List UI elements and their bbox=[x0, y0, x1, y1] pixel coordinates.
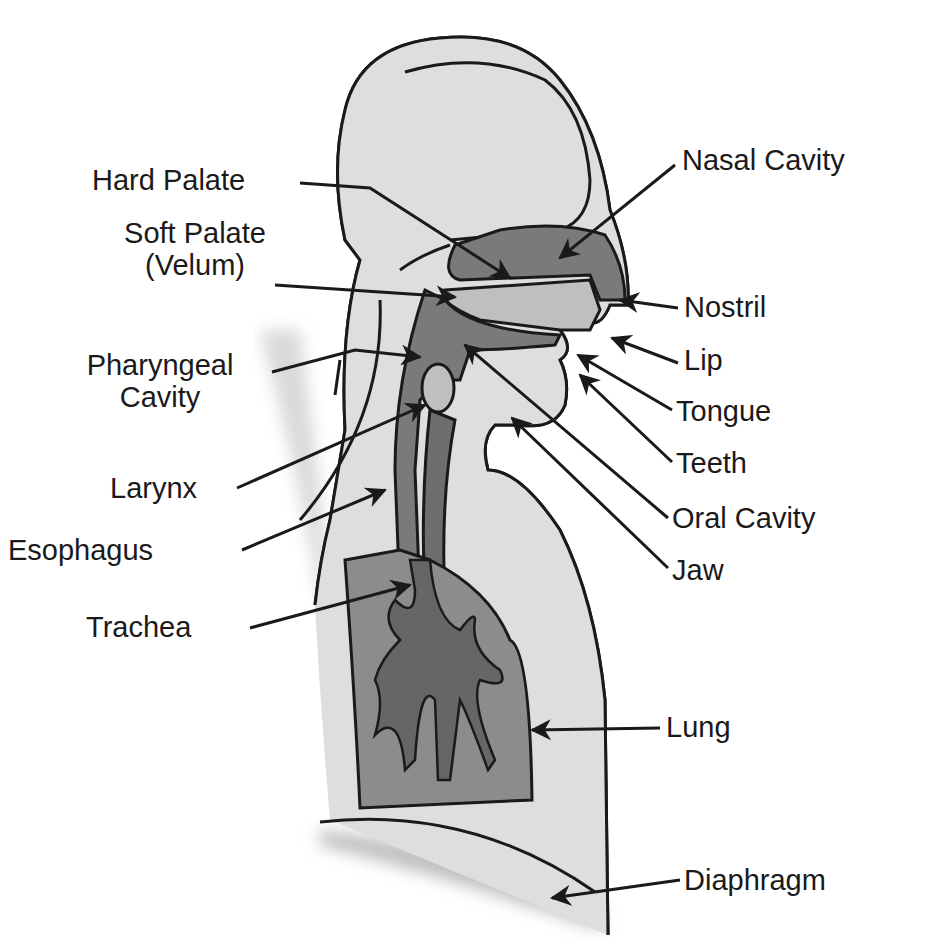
label-oral-cavity: Oral Cavity bbox=[672, 503, 815, 535]
label-hard-palate: Hard Palate bbox=[92, 165, 245, 197]
vocal-tract-diagram: Hard Palate Soft Palate (Velum) Pharynge… bbox=[0, 0, 925, 940]
label-jaw: Jaw bbox=[672, 555, 724, 587]
label-soft-palate-line2: (Velum) bbox=[110, 250, 280, 282]
label-larynx: Larynx bbox=[110, 473, 197, 505]
label-lip: Lip bbox=[684, 345, 723, 377]
label-teeth: Teeth bbox=[676, 448, 747, 480]
label-pharyngeal-line1: Pharyngeal bbox=[60, 350, 260, 382]
label-soft-palate: Soft Palate (Velum) bbox=[110, 218, 280, 282]
label-esophagus: Esophagus bbox=[8, 535, 153, 567]
label-pharyngeal-cavity: Pharyngeal Cavity bbox=[60, 350, 260, 414]
label-tongue: Tongue bbox=[676, 396, 771, 428]
label-pharyngeal-line2: Cavity bbox=[60, 382, 260, 414]
anatomy-illustration bbox=[0, 0, 925, 940]
larynx-shape bbox=[422, 364, 454, 412]
label-nasal-cavity: Nasal Cavity bbox=[682, 145, 845, 177]
label-diaphragm: Diaphragm bbox=[684, 865, 826, 897]
label-nostril: Nostril bbox=[684, 292, 766, 324]
label-lung: Lung bbox=[666, 712, 731, 744]
label-soft-palate-line1: Soft Palate bbox=[110, 218, 280, 250]
label-trachea: Trachea bbox=[86, 612, 191, 644]
